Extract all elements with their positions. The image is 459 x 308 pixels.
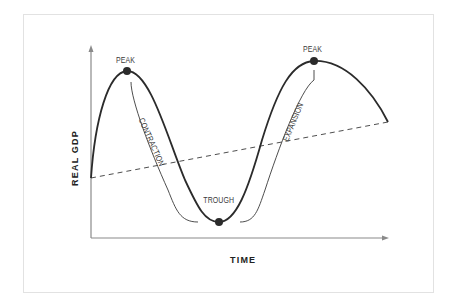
y-axis-arrow-icon xyxy=(89,45,94,52)
contraction-bracket xyxy=(131,82,198,222)
expansion-bracket xyxy=(240,70,314,222)
x-axis-label: TIME xyxy=(230,255,256,265)
peak-marker-2 xyxy=(310,57,318,65)
y-axis-label: REAL GDP xyxy=(70,130,80,186)
peak-label-1: PEAK xyxy=(116,55,135,65)
trough-label: TROUGH xyxy=(203,195,234,205)
x-axis-arrow-icon xyxy=(382,236,389,241)
trough-marker xyxy=(215,218,223,226)
axes xyxy=(89,45,390,241)
peak-label-2: PEAK xyxy=(303,44,322,54)
peak-marker-1 xyxy=(123,67,131,75)
business-cycle-curve xyxy=(91,61,388,222)
trend-line xyxy=(91,122,388,178)
